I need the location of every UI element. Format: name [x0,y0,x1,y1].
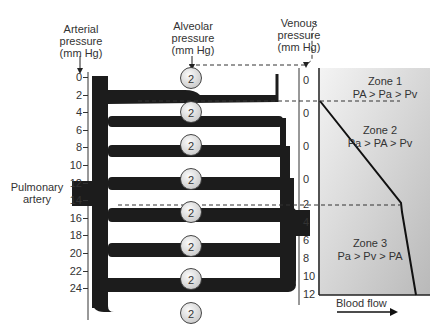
zone-relation: PA > Pa > Pv [340,88,430,101]
label-line: (mm Hg) [264,41,334,53]
alveolus: 2 [180,268,202,290]
label-line: pressure [264,29,334,41]
tick-mark [83,112,88,113]
arterial-tick-label: 20 [64,248,82,259]
tick-mark [83,288,88,289]
alveolus: 2 [180,168,202,190]
arterial-pressure-label: Arterial pressure (mm Hg) [46,23,116,59]
venous-tick-label: 0 [303,141,309,152]
alveolus: 2 [180,67,202,89]
label-line: pressure [158,32,228,44]
zone-title: Zone 2 [335,124,425,137]
zone-relation: Pa > PA > Pv [335,137,425,150]
zone-1: Zone 1 PA > Pa > Pv [340,75,430,101]
tick-mark [83,218,88,219]
label-line: Alveolar [158,20,228,32]
label-line: (mm Hg) [46,47,116,59]
alveolar-pressure-label: Alveolar pressure (mm Hg) [158,20,228,56]
tick-mark [83,183,88,184]
zone-title: Zone 1 [340,75,430,88]
arterial-tick-label: 24 [64,283,82,294]
arterial-tick-label: 10 [64,160,82,171]
alveolus: 2 [180,235,202,257]
tick-mark [83,95,88,96]
label-line: artery [2,193,72,205]
label-line: Pulmonary [2,181,72,193]
label-line: (mm Hg) [158,44,228,56]
zone-3: Zone 3 Pa > Pv > PA [325,237,415,263]
zone-relation: Pa > Pv > PA [325,250,415,263]
venous-tick-label: 6 [303,235,309,246]
arterial-tick-label: 12 [64,178,82,189]
venous-pressure-label: Venous pressure (mm Hg) [264,17,334,53]
arterial-tick-label: 0 [64,72,82,83]
venous-tick-label: 2 [303,199,309,210]
tick-mark [83,235,88,236]
venous-tick-label: 0 [303,108,309,119]
arterial-tick-label: 14 [64,195,82,206]
label-line: pressure [46,35,116,47]
label-line: Venous [264,17,334,29]
venous-tick-label: 0 [303,75,309,86]
tick-mark [83,253,88,254]
venous-tick-label: 4 [303,217,309,228]
alveolus: 2 [180,302,202,324]
arterial-tick-label: 22 [64,266,82,277]
pulmonary-artery-label: Pulmonary artery [2,181,72,205]
venous-tick-label: 10 [303,271,315,282]
arterial-tick-label: 4 [64,107,82,118]
alveolus: 2 [180,134,202,156]
alveolus: 2 [180,201,202,223]
venous-tick-label: 8 [303,253,309,264]
blood-flow-label: Blood flow [336,297,406,309]
tick-mark [83,165,88,166]
zone-title: Zone 3 [325,237,415,250]
tick-mark [83,130,88,131]
arterial-tick-label: 18 [64,230,82,241]
tick-mark [83,77,88,78]
tick-mark [83,200,88,201]
arterial-tick-label: 2 [64,90,82,101]
alveolus: 2 [180,101,202,123]
label-line: Arterial [46,23,116,35]
arterial-tick-label: 16 [64,213,82,224]
tick-mark [83,271,88,272]
venous-tick-label: 12 [303,289,315,300]
tick-mark [83,147,88,148]
venous-tick-label: 0 [303,174,309,185]
zone-2: Zone 2 Pa > PA > Pv [335,124,425,150]
arterial-tick-label: 8 [64,142,82,153]
arterial-tick-label: 6 [64,125,82,136]
